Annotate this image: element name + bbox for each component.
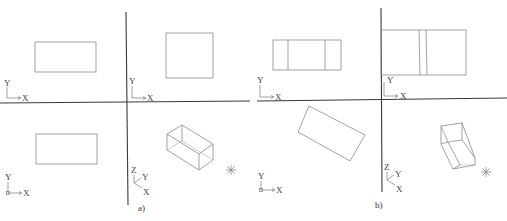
- ucs-icon-top-left-b: Y X: [257, 75, 282, 102]
- x-axis-label: X: [22, 93, 29, 103]
- rotated-isometric-wireframe-box: [441, 123, 475, 169]
- view-cursor-star-icon: [481, 167, 491, 177]
- x-axis-label: X: [23, 188, 30, 198]
- ucs-icon-top-right-b: Y X: [384, 75, 407, 101]
- x-axis-label: X: [275, 92, 282, 102]
- z-axis-label: Z: [131, 165, 137, 175]
- x-axis-label: X: [147, 93, 154, 103]
- panel-a-vertical-divider: [126, 12, 128, 205]
- ucs-icon-top-right: Y X: [129, 76, 154, 103]
- panel-b: Y X Y X Y X: [257, 8, 507, 210]
- ucs-icon-top-left: Y X: [4, 78, 29, 103]
- isometric-wireframe-box: [167, 125, 213, 170]
- x-axis-label: X: [400, 91, 407, 101]
- ucs-icon-bottom-left: Y X: [5, 172, 30, 198]
- front-view-rectangle: [35, 42, 96, 72]
- x-axis-label: X: [276, 185, 283, 195]
- y-axis-label: Y: [129, 76, 136, 86]
- ucs-icon-bottom-left-b: Y X: [258, 171, 283, 195]
- caption-b: b): [375, 200, 383, 210]
- panel-a: Y X Y X Y X: [0, 12, 250, 213]
- x-axis-label: X: [396, 184, 403, 194]
- top-view-rectangle: [36, 134, 97, 164]
- caption-a: a): [138, 203, 145, 213]
- ucs-icon-3d-a: Z Y X: [131, 165, 150, 197]
- z-axis-label: Z: [384, 162, 390, 172]
- front-view-rectangle-with-edges: [273, 40, 341, 70]
- y-axis-label: Y: [387, 75, 394, 85]
- y-axis-label: Y: [142, 172, 149, 182]
- panel-a-horizontal-divider: [0, 101, 250, 103]
- side-view-square: [166, 33, 213, 78]
- top-view-rotated-rectangle: [298, 106, 365, 161]
- y-axis-label: Y: [395, 169, 402, 179]
- ucs-icon-3d-b: Z Y X: [384, 162, 403, 194]
- y-axis-label: Y: [258, 171, 265, 181]
- view-cursor-star-icon: [226, 165, 236, 175]
- y-axis-label: Y: [257, 75, 264, 85]
- side-view-rectangle-with-edges: [381, 30, 466, 75]
- y-axis-label: Y: [5, 172, 12, 182]
- x-axis-label: X: [143, 187, 150, 197]
- cad-viewports-figure: Y X Y X Y X: [0, 0, 507, 221]
- y-axis-label: Y: [4, 78, 11, 88]
